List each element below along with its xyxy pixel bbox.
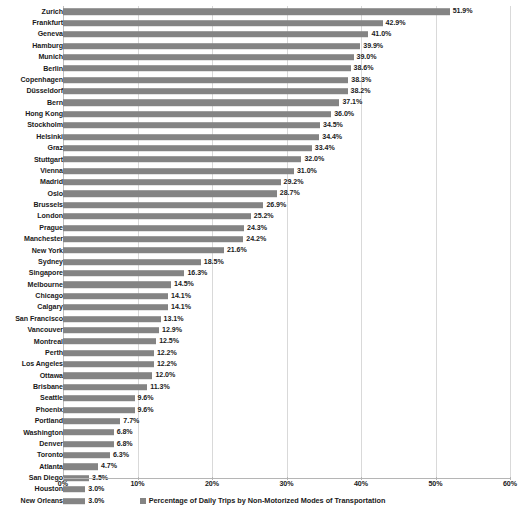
category-label: Geneva <box>38 30 63 38</box>
bar[interactable] <box>63 338 156 344</box>
bar-container: 26.9% <box>63 199 525 210</box>
bar-container: 24.3% <box>63 222 525 233</box>
bar[interactable] <box>63 145 312 151</box>
bar[interactable] <box>63 168 294 174</box>
bar-row: Sydney18.5% <box>0 256 525 267</box>
bar-row: New York21.6% <box>0 245 525 256</box>
bar[interactable] <box>63 88 348 94</box>
bar[interactable] <box>63 350 154 356</box>
plot-area: Zurich51.9%Frankfurt42.9%Geneva41.0%Hamb… <box>0 6 525 478</box>
bar-value-label: 39.0% <box>357 53 377 61</box>
bar-container: 33.4% <box>63 143 525 154</box>
bar-row: Helsinki34.4% <box>0 131 525 142</box>
bar[interactable] <box>63 9 450 15</box>
bar[interactable] <box>63 373 152 379</box>
category-label: Portland <box>35 417 63 425</box>
bar-container: 16.3% <box>63 268 525 279</box>
category-label: Singapore <box>29 269 63 277</box>
bar[interactable] <box>63 464 98 470</box>
bar-value-label: 29.2% <box>284 178 304 186</box>
bar-value-label: 39.9% <box>363 42 383 50</box>
bar-row: Madrid29.2% <box>0 177 525 188</box>
bar-row: Montreal12.5% <box>0 336 525 347</box>
bar[interactable] <box>63 111 331 117</box>
bar[interactable] <box>63 20 383 26</box>
bar[interactable] <box>63 293 168 299</box>
category-label: Bern <box>47 99 63 107</box>
bar-value-label: 9.6% <box>138 394 154 402</box>
bar[interactable] <box>63 122 320 128</box>
bar[interactable] <box>63 179 281 185</box>
bar[interactable] <box>63 236 243 242</box>
category-label: Washington <box>23 429 63 437</box>
bar-value-label: 37.1% <box>342 99 362 107</box>
bar[interactable] <box>63 202 263 208</box>
bar-container: 12.2% <box>63 359 525 370</box>
bar[interactable] <box>63 441 114 447</box>
bar[interactable] <box>63 282 171 288</box>
bar[interactable] <box>63 259 201 265</box>
bar[interactable] <box>63 327 159 333</box>
bar-row: Melbourne14.5% <box>0 279 525 290</box>
bar-row: Zurich51.9% <box>0 6 525 17</box>
bar-row: Oslo28.7% <box>0 188 525 199</box>
bar[interactable] <box>63 407 135 413</box>
bar-value-label: 14.1% <box>171 292 191 300</box>
bar-value-label: 7.7% <box>123 417 139 425</box>
bar-row: Los Angeles12.2% <box>0 359 525 370</box>
category-label: London <box>37 212 63 220</box>
bar-value-label: 38.3% <box>351 76 371 84</box>
bar[interactable] <box>63 225 244 231</box>
bar[interactable] <box>63 418 120 424</box>
bar-container: 38.2% <box>63 86 525 97</box>
bar[interactable] <box>63 191 277 197</box>
category-label: Chicago <box>35 292 63 300</box>
bar-row: Graz33.4% <box>0 143 525 154</box>
category-label: Brussels <box>33 201 63 209</box>
bar[interactable] <box>63 134 319 140</box>
bar-chart: Zurich51.9%Frankfurt42.9%Geneva41.0%Hamb… <box>0 0 525 516</box>
legend-swatch-icon <box>140 498 146 504</box>
bar-value-label: 21.6% <box>227 247 247 255</box>
bar-container: 14.5% <box>63 279 525 290</box>
bar[interactable] <box>63 100 339 106</box>
category-label: Helsinki <box>36 133 63 141</box>
bar[interactable] <box>63 77 348 83</box>
bar-row: Vancouver12.9% <box>0 325 525 336</box>
bar[interactable] <box>63 384 147 390</box>
bar-container: 9.6% <box>63 393 525 404</box>
category-label: Vienna <box>40 167 63 175</box>
bar[interactable] <box>63 361 154 367</box>
category-label: Munich <box>38 53 63 61</box>
bar[interactable] <box>63 429 114 435</box>
bar[interactable] <box>63 247 224 253</box>
bar-container: 12.5% <box>63 336 525 347</box>
bar[interactable] <box>63 65 351 71</box>
bar[interactable] <box>63 156 301 162</box>
bar[interactable] <box>63 270 184 276</box>
bar[interactable] <box>63 304 168 310</box>
category-label: San Francisco <box>15 315 63 323</box>
bar-value-label: 25.2% <box>254 212 274 220</box>
bar[interactable] <box>63 452 110 458</box>
bar-row: Toronto6.3% <box>0 450 525 461</box>
category-label: Manchester <box>24 235 63 243</box>
bar-value-label: 26.9% <box>266 201 286 209</box>
bar[interactable] <box>63 43 360 49</box>
bar-row: Brussels26.9% <box>0 199 525 210</box>
bar[interactable] <box>63 395 135 401</box>
bar-row: Calgary14.1% <box>0 302 525 313</box>
bar[interactable] <box>63 213 251 219</box>
bar-value-label: 34.4% <box>322 133 342 141</box>
bar-value-label: 32.0% <box>304 156 324 164</box>
bar-value-label: 9.6% <box>138 406 154 414</box>
bar[interactable] <box>63 316 161 322</box>
bar-container: 13.1% <box>63 313 525 324</box>
bar-value-label: 14.1% <box>171 303 191 311</box>
category-label: Vancouver <box>28 326 63 334</box>
category-label: Frankfurt <box>32 19 63 27</box>
bar[interactable] <box>63 54 354 60</box>
category-label: Melbourne <box>28 281 63 289</box>
category-label: Zurich <box>42 8 63 16</box>
bar[interactable] <box>63 31 368 37</box>
